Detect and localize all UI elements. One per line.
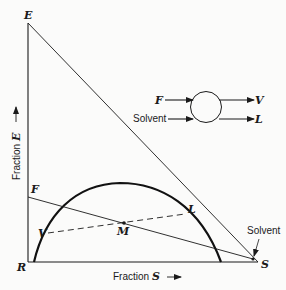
- point-F-label: F: [30, 183, 40, 196]
- input-F-label: F: [154, 94, 164, 107]
- vertex-R-label: R: [16, 261, 26, 274]
- flow-schematic: F Solvent V L: [133, 92, 265, 127]
- svg-text:Fraction E: Fraction E: [10, 132, 23, 180]
- output-L-label: L: [254, 113, 263, 126]
- hypotenuse-ES: [28, 23, 258, 262]
- y-axis-label: Fraction E: [10, 132, 23, 180]
- point-L-label: L: [187, 203, 196, 216]
- solvent-pointer: [254, 239, 259, 256]
- input-solvent-label: Solvent: [133, 113, 167, 124]
- extraction-diagram: E R S F V M L Solvent Fraction E Fractio…: [0, 0, 286, 290]
- vertex-E-label: E: [23, 9, 33, 22]
- output-V-label: V: [255, 94, 265, 107]
- vertex-S-label: S: [261, 258, 269, 271]
- solvent-annotation: Solvent: [247, 225, 281, 236]
- point-V-label: V: [38, 227, 48, 240]
- mixer-unit: [191, 92, 222, 123]
- x-axis-label: Fraction S: [113, 270, 160, 283]
- point-M-label: M: [116, 225, 130, 238]
- svg-text:Fraction S: Fraction S: [113, 270, 160, 283]
- feed-solvent-line: [28, 197, 253, 259]
- point-solvent-dot: [251, 257, 254, 260]
